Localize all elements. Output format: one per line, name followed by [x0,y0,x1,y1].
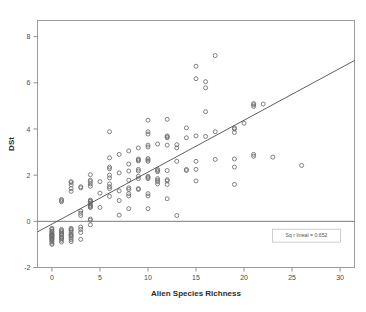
data-point [271,155,275,159]
y-axis-title: DSt [7,137,16,151]
y-tick-label: 8 [27,33,31,40]
x-tick-label: 0 [50,274,54,281]
x-tick-label: 30 [336,274,344,281]
plot-canvas: 051015202530 -202468 Sq r lineal = 0.652… [0,0,366,312]
x-axis-title: Alien Species Richness [151,289,241,298]
data-point [127,162,131,166]
data-point [108,130,112,134]
data-point [232,157,236,161]
data-point [156,142,160,146]
data-point [194,167,198,171]
data-point [98,205,102,209]
data-point [204,80,208,84]
data-point [165,143,169,147]
data-point [204,134,208,138]
x-tick-label: 5 [98,274,102,281]
data-point [108,194,112,198]
data-point [127,207,131,211]
data-points [50,54,304,247]
data-point [136,146,140,150]
data-point [184,126,188,130]
y-axis-tick-labels: -202468 [24,33,30,271]
data-point [88,173,92,177]
data-point [146,118,150,122]
data-point [165,117,169,121]
data-point [213,157,217,161]
data-point [175,214,179,218]
data-point [213,54,217,58]
data-point [117,199,121,203]
data-point [194,179,198,183]
data-point [194,77,198,81]
y-tick-label: 6 [27,79,31,86]
data-point [232,165,236,169]
data-point [204,110,208,114]
data-point [184,136,188,140]
x-tick-label: 10 [144,274,152,281]
data-point [165,169,169,173]
data-point [117,213,121,217]
data-point [194,134,198,138]
data-point [213,130,217,134]
plot-frame [38,21,355,268]
data-point [69,189,73,193]
data-point [108,156,112,160]
data-point [175,159,179,163]
data-point [146,207,150,211]
data-point [165,197,169,201]
data-point [108,173,112,177]
y-tick-label: 0 [27,218,31,225]
data-point [204,86,208,90]
rsquared-annotation-label: Sq r lineal = 0.652 [285,232,327,238]
data-point [79,237,83,241]
y-tick-label: 4 [27,126,31,133]
data-point [232,182,236,186]
x-axis-tick-labels: 051015202530 [50,274,344,281]
x-axis-ticks [52,268,340,272]
x-tick-label: 15 [192,274,200,281]
data-point [98,180,102,184]
y-tick-label: 2 [27,172,31,179]
data-point [108,182,112,186]
y-tick-label: -2 [24,264,30,271]
data-point [98,191,102,195]
data-point [117,189,121,193]
data-point [261,102,265,106]
data-point [194,64,198,68]
data-point [117,152,121,156]
data-point [242,121,246,125]
data-point [127,169,131,173]
y-axis-ticks [34,37,38,268]
data-point [88,223,92,227]
data-point [117,171,121,175]
scatter-chart: 051015202530 -202468 Sq r lineal = 0.652… [0,0,366,312]
x-tick-label: 20 [240,274,248,281]
x-tick-label: 25 [288,274,296,281]
linear-fit-line [38,60,355,231]
data-point [127,149,131,153]
data-point [194,159,198,163]
data-point [300,163,304,167]
